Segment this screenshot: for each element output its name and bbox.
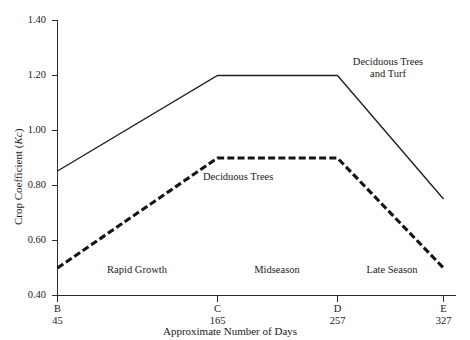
x-tick-label-c: C bbox=[204, 303, 232, 315]
chart-plot-area bbox=[0, 0, 470, 340]
y-tick-label-140: 1.40 bbox=[14, 14, 46, 26]
x-tick-label-b: B bbox=[44, 303, 72, 315]
x-tick-number-327: 327 bbox=[428, 315, 460, 327]
stage-label-midseason: Midseason bbox=[222, 264, 332, 276]
y-tick-label-120: 1.20 bbox=[14, 69, 46, 81]
x-tick-label-e: E bbox=[430, 303, 458, 315]
series-annotation-deciduous-trees-and-turf: Deciduous Trees and Turf bbox=[333, 56, 443, 80]
series-annotation-line1: Deciduous Trees bbox=[333, 56, 443, 68]
y-axis-title-kc: Kc bbox=[12, 132, 24, 144]
series-annotation-deciduous-trees: Deciduous Trees bbox=[203, 171, 273, 183]
x-axis-title: Approximate Number of Days bbox=[110, 325, 350, 337]
x-tick-label-d: D bbox=[324, 303, 352, 315]
y-axis-title-pre: Crop Coefficient ( bbox=[12, 145, 24, 225]
y-axis-title: Crop Coefficient (Kc) bbox=[12, 129, 24, 225]
stage-label-late-season: Late Season bbox=[337, 264, 447, 276]
y-tick-label-060: 0.60 bbox=[14, 234, 46, 246]
series-annotation-line2: and Turf bbox=[333, 68, 443, 80]
stage-label-rapid-growth: Rapid Growth bbox=[82, 264, 192, 276]
crop-coefficient-chart: 1.40 1.20 1.00 0.80 0.60 0.40 Crop Coeff… bbox=[0, 0, 470, 340]
x-tick-number-45: 45 bbox=[42, 315, 74, 327]
y-axis-title-post: ) bbox=[12, 129, 24, 133]
y-tick-label-040: 0.40 bbox=[14, 289, 46, 301]
